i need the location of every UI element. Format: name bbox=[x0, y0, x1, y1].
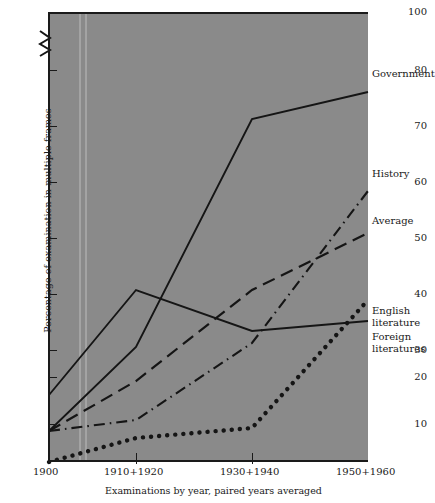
x-tick-label-1930-1940: 1930+1940 bbox=[220, 466, 279, 477]
y-axis-label: Percentage of examination in multiple fr… bbox=[42, 71, 53, 371]
x-tick-label-1950-1960: 1950+1960 bbox=[336, 466, 395, 477]
y-tick-label-70: 70 bbox=[381, 121, 427, 131]
y-tickmark-10 bbox=[48, 424, 57, 425]
series-label-foreign-literatures-line2: literatures bbox=[372, 343, 425, 354]
y-tick-label-40: 40 bbox=[381, 289, 427, 299]
series-label-average: Average bbox=[372, 215, 413, 227]
y-tick-label-50: 50 bbox=[381, 233, 427, 243]
series-label-foreign-literatures: Foreign literatures bbox=[372, 331, 425, 354]
y-tickmark-20b bbox=[48, 377, 57, 378]
series-label-foreign-literatures-line1: Foreign bbox=[372, 331, 411, 342]
series-label-history: History bbox=[372, 168, 410, 180]
series-line-english-literature bbox=[49, 290, 368, 395]
vertical-guide-lines bbox=[80, 14, 86, 460]
x-tick-label-1900: 1900 bbox=[33, 466, 58, 477]
series-label-government: Government bbox=[372, 68, 435, 80]
y-tick-label-100: 100 bbox=[381, 7, 427, 17]
series-label-english-literature: English literature bbox=[372, 305, 420, 328]
y-tick-label-10: 10 bbox=[381, 419, 427, 429]
x-tickmark-1930-1940 bbox=[252, 453, 253, 464]
series-line-government bbox=[49, 92, 368, 431]
y-tick-label-20: 20 bbox=[381, 372, 427, 382]
y-axis-break-icon bbox=[40, 31, 50, 56]
x-tickmark-1910-1920 bbox=[136, 453, 137, 464]
series-line-history bbox=[49, 191, 368, 431]
x-tick-label-1910-1920: 1910+1920 bbox=[104, 466, 163, 477]
series-label-english-literature-line2: literature bbox=[372, 317, 420, 328]
x-axis-label: Examinations by year, paired years avera… bbox=[0, 485, 427, 496]
series-label-english-literature-line1: English bbox=[372, 305, 410, 316]
series-line-average bbox=[49, 233, 368, 431]
